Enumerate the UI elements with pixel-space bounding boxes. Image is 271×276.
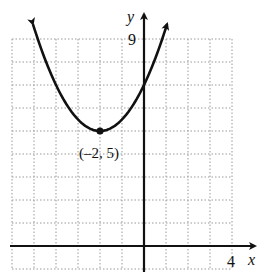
x-axis-label: x <box>247 251 255 268</box>
vertex-label: (–2, 5) <box>79 145 119 162</box>
vertex-point <box>96 127 103 134</box>
grid <box>12 39 232 269</box>
x-tick-label-4: 4 <box>227 253 235 270</box>
y-axis-label: y <box>125 8 135 26</box>
parabola-graph: y 9 4 x (–2, 5) <box>0 0 271 276</box>
y-tick-label-9: 9 <box>128 31 136 48</box>
